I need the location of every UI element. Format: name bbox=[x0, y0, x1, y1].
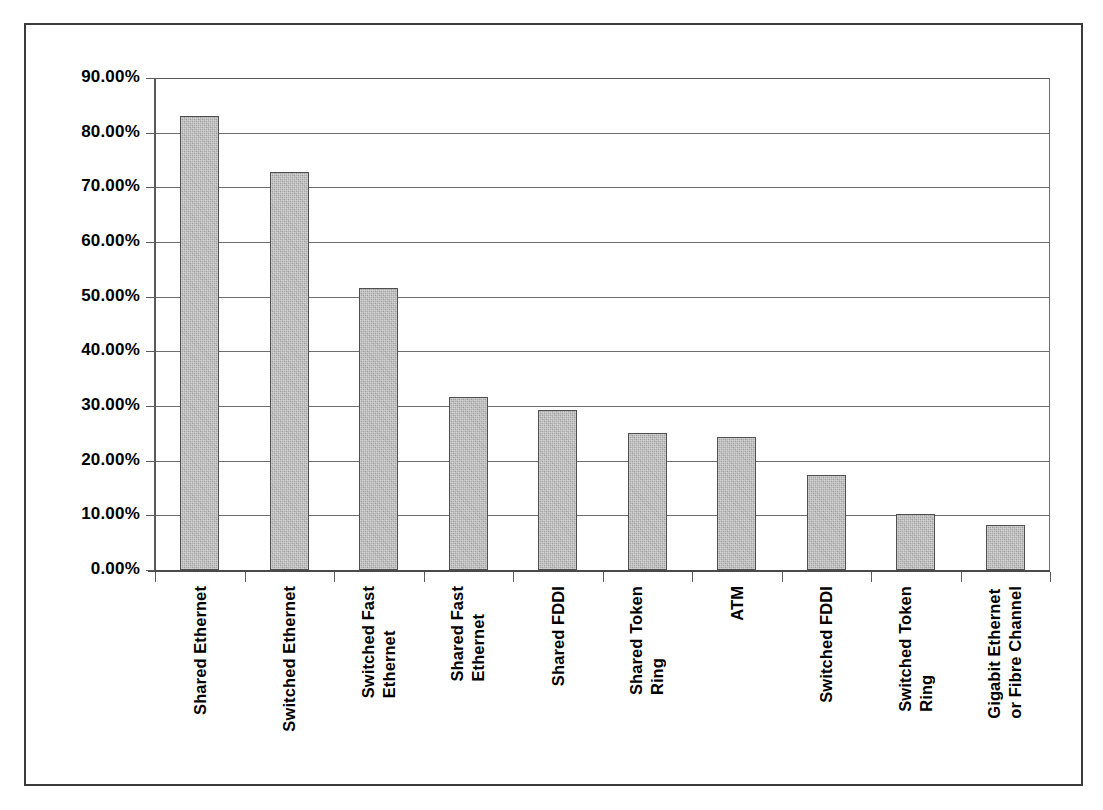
bar bbox=[449, 397, 488, 570]
y-axis-tick-label: 10.00% bbox=[40, 504, 140, 524]
x-axis-label-text: Shared Fast bbox=[448, 586, 467, 682]
x-axis-label: Switched FastEthernet bbox=[334, 586, 424, 776]
x-axis-label: ATM bbox=[692, 586, 782, 776]
gridline bbox=[155, 133, 1050, 134]
gridline bbox=[155, 78, 1050, 79]
x-axis-label-text: Switched Fast bbox=[359, 586, 378, 698]
x-axis-tick bbox=[961, 572, 962, 582]
y-axis-tick-label: 50.00% bbox=[40, 286, 140, 306]
plot-area bbox=[155, 78, 1050, 570]
x-axis-label-text: Shared Token bbox=[627, 586, 646, 695]
y-axis-tick-label: 40.00% bbox=[40, 340, 140, 360]
y-axis-tick bbox=[146, 133, 155, 134]
x-axis-label: Shared Ethernet bbox=[155, 586, 245, 776]
x-axis-tick bbox=[513, 572, 514, 582]
y-axis-tick-label: 30.00% bbox=[40, 395, 140, 415]
x-axis-label: Gigabit Ethernetor Fibre Channel bbox=[961, 586, 1051, 776]
y-axis-tick-label: 80.00% bbox=[40, 122, 140, 142]
y-axis-tick bbox=[146, 187, 155, 188]
bar bbox=[896, 514, 935, 570]
x-axis-label: Switched FDDI bbox=[782, 586, 872, 776]
bar bbox=[628, 433, 667, 570]
bar bbox=[538, 410, 577, 570]
x-axis-tick bbox=[1050, 572, 1051, 582]
x-axis-label-text: Ethernet bbox=[469, 586, 488, 682]
x-axis-tick bbox=[603, 572, 604, 582]
y-axis-tick bbox=[146, 515, 155, 516]
y-axis-tick-label: 70.00% bbox=[40, 176, 140, 196]
y-axis-tick bbox=[146, 78, 155, 79]
y-axis-tick bbox=[146, 461, 155, 462]
bar bbox=[986, 525, 1025, 570]
x-axis-tick bbox=[245, 572, 246, 582]
x-axis-label-text: Switched Ethernet bbox=[280, 586, 299, 732]
x-axis-label-text: or Fibre Channel bbox=[1006, 586, 1025, 719]
x-axis-label: Shared FastEthernet bbox=[424, 586, 514, 776]
y-axis-tick bbox=[146, 351, 155, 352]
x-axis-tick bbox=[692, 572, 693, 582]
bar bbox=[717, 437, 756, 570]
plot-right-border bbox=[1049, 78, 1050, 572]
x-axis-label-text: ATM bbox=[727, 586, 746, 621]
x-axis-label-text: Gigabit Ethernet bbox=[985, 586, 1004, 719]
y-axis-tick-label: 90.00% bbox=[40, 67, 140, 87]
chart-figure: 0.00%10.00%20.00%30.00%40.00%50.00%60.00… bbox=[0, 0, 1103, 810]
x-axis-tick bbox=[155, 572, 156, 582]
x-axis-label-text: Shared Ethernet bbox=[190, 586, 209, 715]
bar bbox=[359, 288, 398, 570]
x-axis-label-text: Switched FDDI bbox=[817, 586, 836, 703]
bar bbox=[807, 475, 846, 570]
x-axis-tick bbox=[334, 572, 335, 582]
x-axis-tick bbox=[782, 572, 783, 582]
y-axis-tick bbox=[146, 242, 155, 243]
y-axis-tick-label: 60.00% bbox=[40, 231, 140, 251]
x-axis-label-text: Shared FDDI bbox=[548, 586, 567, 686]
x-axis-label-text: Ring bbox=[648, 586, 667, 695]
x-axis-labels: Shared EthernetSwitched EthernetSwitched… bbox=[0, 586, 1103, 786]
x-axis-tick bbox=[424, 572, 425, 582]
y-axis-tick-label: 20.00% bbox=[40, 450, 140, 470]
bar bbox=[270, 172, 309, 570]
y-axis-tick bbox=[146, 570, 155, 571]
x-axis-ticks bbox=[0, 572, 1103, 584]
x-axis-label: Shared TokenRing bbox=[603, 586, 693, 776]
bar bbox=[180, 116, 219, 570]
y-axis-tick bbox=[146, 406, 155, 407]
x-axis-label: Switched Ethernet bbox=[245, 586, 335, 776]
x-axis-label-text: Switched Token bbox=[896, 586, 915, 712]
x-axis-label: Shared FDDI bbox=[513, 586, 603, 776]
x-axis-label: Switched TokenRing bbox=[871, 586, 961, 776]
x-axis-label-text: Ethernet bbox=[380, 586, 399, 698]
y-axis-line bbox=[154, 78, 156, 572]
x-axis-tick bbox=[871, 572, 872, 582]
x-axis-label-text: Ring bbox=[917, 586, 936, 712]
y-axis-tick bbox=[146, 297, 155, 298]
